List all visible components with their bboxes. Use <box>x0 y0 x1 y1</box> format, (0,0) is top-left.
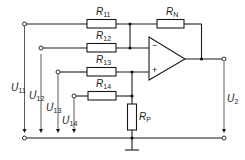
arrow-head-icon <box>72 129 76 133</box>
input-branch-14 <box>72 92 132 134</box>
label-rn: RN <box>166 7 178 18</box>
label-r13: R13 <box>96 55 111 66</box>
resistor-r13 <box>87 68 116 77</box>
label-u2: U'2 <box>227 92 238 105</box>
schematic-drawing <box>0 0 245 160</box>
resistor-r11 <box>87 20 116 29</box>
terminal-output <box>222 57 226 61</box>
label-r14: R14 <box>96 79 111 90</box>
label-r11: R11 <box>96 7 111 18</box>
junction-node <box>130 94 133 97</box>
terminal-u12 <box>39 46 43 50</box>
resistor-r12 <box>87 44 116 53</box>
terminal-ground-right <box>222 136 226 140</box>
junction-node <box>200 57 203 60</box>
label-rp: RP <box>139 112 151 123</box>
label-u14: U'14 <box>62 114 77 127</box>
resistor-rp <box>128 104 137 130</box>
terminal-u13 <box>56 70 60 74</box>
junction-node <box>130 70 133 73</box>
terminal-ground-left <box>23 136 27 140</box>
junction-node <box>128 22 131 25</box>
circuit-diagram: − + R11 R12 R13 R14 RN RP U'11 U'12 U'13… <box>0 0 245 160</box>
label-r12: R12 <box>96 31 111 42</box>
arrow-head-icon <box>23 129 27 133</box>
arrow-head-icon <box>222 129 226 133</box>
label-u11: U'11 <box>11 81 26 94</box>
terminal-u11 <box>23 22 27 26</box>
arrow-head-icon <box>39 129 43 133</box>
opamp-inverting-sign: − <box>152 41 157 50</box>
terminal-u14 <box>72 94 76 98</box>
opamp-noninverting-sign: + <box>152 66 157 75</box>
resistor-rn <box>157 20 184 29</box>
junction-node <box>130 136 133 139</box>
resistor-r14 <box>88 92 116 101</box>
label-u12: U'12 <box>29 89 44 102</box>
label-u13: U'13 <box>46 101 61 114</box>
arrow-head-icon <box>56 129 60 133</box>
